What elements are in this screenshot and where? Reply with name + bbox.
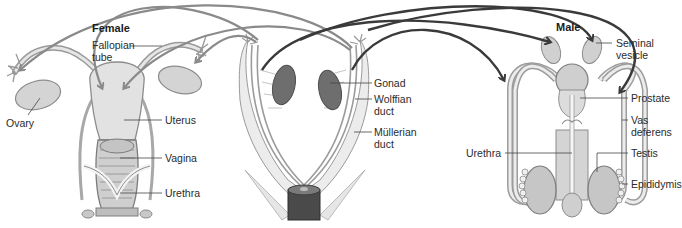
male-title: Male xyxy=(556,21,580,33)
label-female-urethra: Urethra xyxy=(165,187,200,199)
female-title: Female xyxy=(92,22,130,34)
label-mullerian-duct: Müllerian duct xyxy=(374,126,429,150)
label-male-urethra: Urethra xyxy=(466,147,501,159)
male-anatomy xyxy=(505,34,645,217)
label-vagina: Vagina xyxy=(165,152,197,164)
label-testis: Testis xyxy=(631,147,658,159)
label-vas-deferens: Vas deferens xyxy=(631,114,681,138)
label-uterus: Uterus xyxy=(165,114,196,126)
label-prostate: Prostate xyxy=(631,92,670,104)
label-seminal-vesicle: Seminal vesicle xyxy=(616,37,676,61)
label-fallopian-tube: Fallopian tube xyxy=(92,39,152,63)
label-wolffian-duct: Wolffian duct xyxy=(374,93,429,117)
label-ovary: Ovary xyxy=(6,117,34,129)
embryo-anatomy xyxy=(239,34,372,220)
label-epididymis: Epididymis xyxy=(631,178,682,190)
label-gonad: Gonad xyxy=(374,77,406,89)
